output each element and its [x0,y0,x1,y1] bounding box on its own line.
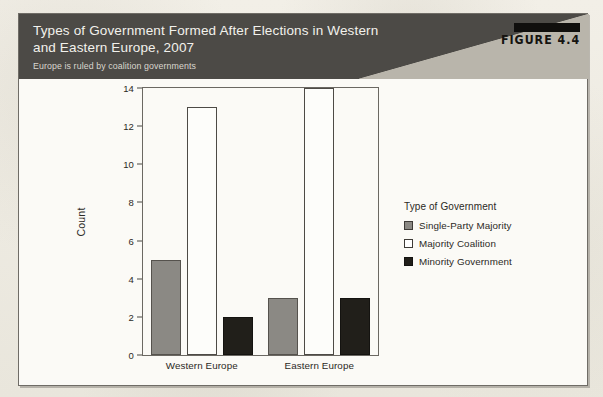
y-axis-tick-label: 6 [129,235,134,246]
figure-title-line-1: Types of Government Formed After Electio… [33,22,433,39]
figure-number-label: FIGURE 4.4 [501,34,580,47]
y-axis-tick: 14 [123,83,142,94]
legend-label: Majority Coalition [419,238,496,249]
y-axis-tick: 12 [123,121,142,132]
legend-swatch-coalition [404,239,413,248]
legend-item: Single-Party Majority [404,220,579,231]
y-axis-tick-label: 4 [129,273,134,284]
y-axis-tick-label: 0 [129,350,134,361]
legend-title: Type of Government [404,201,579,212]
y-axis-title: Count [66,87,95,356]
y-axis-tick: 6 [129,235,142,246]
legend-item: Majority Coalition [404,238,579,249]
x-axis-labels: Western EuropeEastern Europe [143,360,378,376]
chart-legend: Type of Government Single-Party Majority… [404,201,579,274]
y-axis-title-text: Count [75,207,87,236]
figure-subtitle: Europe is ruled by coalition governments [33,60,433,72]
y-axis-tick: 0 [129,350,142,361]
y-axis-tick: 10 [123,159,142,170]
bars-layer [143,88,378,355]
bar-minority-government-eastern-europe [340,298,370,355]
legend-item: Minority Government [404,256,579,267]
y-axis-tick-label: 12 [123,121,134,132]
bar-single-party-majority-western-europe [151,260,181,355]
legend-swatch-minority [404,257,413,266]
y-axis-tick-label: 10 [123,159,134,170]
figure-number-bar [514,23,580,32]
y-axis-tick: 2 [129,311,142,322]
y-axis-tick-label: 2 [129,311,134,322]
figure-card: Types of Government Formed After Electio… [18,13,588,386]
legend-swatch-single [404,221,413,230]
figure-title-line-2: and Eastern Europe, 2007 [33,39,433,56]
figure-title-block: Types of Government Formed After Electio… [33,22,433,72]
chart-region: Count 02468101214 Western EuropeEastern … [19,79,589,386]
legend-label: Single-Party Majority [419,220,511,231]
bar-single-party-majority-eastern-europe [268,298,298,355]
bar-minority-government-western-europe [223,317,253,355]
x-axis-label: Western Europe [166,360,238,371]
figure-header: Types of Government Formed After Electio… [19,14,589,79]
legend-label: Minority Government [419,256,512,267]
y-axis-tick: 4 [129,273,142,284]
y-axis-ticks: 02468101214 [95,87,142,356]
figure-number-block: FIGURE 4.4 [494,23,580,47]
y-axis-tick-label: 14 [123,83,134,94]
y-axis-tick: 8 [129,197,142,208]
bar-majority-coalition-eastern-europe [304,88,334,355]
y-axis-tick-label: 8 [129,197,134,208]
bar-majority-coalition-western-europe [187,107,217,355]
x-axis-label: Eastern Europe [285,360,354,371]
